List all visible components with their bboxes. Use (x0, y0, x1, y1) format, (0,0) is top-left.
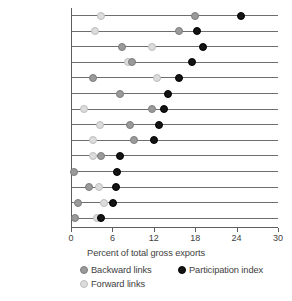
row-baseline (71, 46, 278, 47)
marker-participation-index (160, 105, 168, 113)
chart-row: Korea, Rep, (0, 55, 292, 70)
marker-backward-links (128, 58, 136, 66)
row-label-country: Mexico (0, 102, 72, 117)
row-label-country: Japan (0, 70, 72, 85)
marker-participation-index (97, 214, 105, 222)
chart-row: Philippines (0, 39, 292, 54)
x-tick-mark (112, 228, 113, 232)
x-tick-mark (237, 228, 238, 232)
marker-backward-links (97, 152, 105, 160)
x-axis-line (71, 227, 278, 228)
marker-forward-links (89, 152, 97, 160)
marker-forward-links (153, 74, 161, 82)
chart-row: Germany (0, 180, 292, 195)
chart-row: Malaysia (0, 8, 292, 23)
row-label-country: Philippines (0, 39, 72, 54)
row-baseline (71, 62, 278, 63)
chart-row: Singapore (0, 86, 292, 101)
marker-participation-index (237, 12, 245, 20)
y-axis-line (71, 8, 72, 227)
marker-backward-links (130, 136, 138, 144)
marker-backward-links (71, 214, 79, 222)
marker-backward-links (74, 199, 82, 207)
legend-item-participation-index: Participation index (178, 265, 263, 275)
marker-participation-index (116, 152, 124, 160)
x-tick-label: 30 (273, 233, 283, 243)
participation-index-swatch-icon (178, 266, 186, 274)
marker-backward-links (70, 168, 78, 176)
legend-item-backward-links: Backward links (80, 265, 152, 275)
marker-forward-links (97, 12, 105, 20)
marker-forward-links (80, 105, 88, 113)
chart-row: United States (0, 195, 292, 210)
x-tick-mark (278, 228, 279, 232)
x-tick-label: 0 (68, 233, 73, 243)
chart-row: Thailand (0, 117, 292, 132)
legend-label-backward-links: Backward links (91, 265, 152, 275)
forward-links-swatch-icon (80, 280, 88, 288)
x-tick-label: 24 (232, 233, 242, 243)
row-label-country: China (0, 24, 72, 39)
row-baseline (71, 171, 278, 172)
row-label-country: Chile (0, 164, 72, 179)
marker-participation-index (193, 27, 201, 35)
legend-item-forward-links: Forward links (80, 279, 145, 289)
x-tick-label: 12 (149, 233, 159, 243)
marker-participation-index (199, 43, 207, 51)
x-axis-title: Percent of total gross exports (0, 248, 292, 258)
legend-label-forward-links: Forward links (91, 279, 145, 289)
chart-row: Vietnam (0, 133, 292, 148)
row-label-country: Poland (0, 148, 72, 163)
legend-label-participation-index: Participation index (189, 265, 263, 275)
marker-participation-index (150, 136, 158, 144)
chart-row: Mexico (0, 102, 292, 117)
marker-forward-links (89, 136, 97, 144)
chart-row: China (0, 24, 292, 39)
chart-legend: Backward links Forward links Participati… (0, 265, 292, 299)
row-label-country: Vietnam (0, 133, 72, 148)
dot-plot-chart: MalaysiaChinaPhilippinesKorea, Rep,Japan… (0, 0, 292, 301)
marker-participation-index (112, 183, 120, 191)
row-baseline (71, 93, 278, 94)
row-label-country: Korea, Rep, (0, 55, 72, 70)
row-label-country: Germany (0, 180, 72, 195)
row-label-country: United States (0, 195, 72, 210)
x-tick-mark (195, 228, 196, 232)
marker-participation-index (188, 58, 196, 66)
row-label-country: South Africa (0, 211, 72, 226)
marker-participation-index (175, 74, 183, 82)
marker-forward-links (91, 27, 99, 35)
marker-backward-links (85, 183, 93, 191)
x-tick-mark (154, 228, 155, 232)
marker-backward-links (89, 74, 97, 82)
marker-backward-links (116, 90, 124, 98)
row-label-country: Singapore (0, 86, 72, 101)
row-baseline (71, 109, 278, 110)
row-label-country: Thailand (0, 117, 72, 132)
marker-backward-links (126, 121, 134, 129)
marker-backward-links (191, 12, 199, 20)
marker-participation-index (113, 168, 121, 176)
x-tick-label: 18 (190, 233, 200, 243)
marker-backward-links (118, 43, 126, 51)
x-tick-mark (71, 228, 72, 232)
x-tick-label: 6 (110, 233, 115, 243)
plot-area: MalaysiaChinaPhilippinesKorea, Rep,Japan… (0, 0, 292, 232)
marker-backward-links (175, 27, 183, 35)
marker-forward-links (95, 183, 103, 191)
marker-forward-links (100, 199, 108, 207)
row-label-country: Malaysia (0, 8, 72, 23)
marker-participation-index (109, 199, 117, 207)
chart-row: Japan (0, 70, 292, 85)
chart-row: Poland (0, 148, 292, 163)
marker-forward-links (148, 43, 156, 51)
marker-backward-links (148, 105, 156, 113)
marker-participation-index (164, 90, 172, 98)
chart-row: South Africa (0, 211, 292, 226)
row-baseline (71, 140, 278, 141)
backward-links-swatch-icon (80, 266, 88, 274)
chart-row: Chile (0, 164, 292, 179)
marker-forward-links (96, 121, 104, 129)
marker-participation-index (155, 121, 163, 129)
